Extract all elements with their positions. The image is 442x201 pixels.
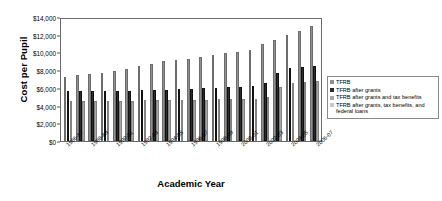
y-axis-tick-label: $12,000: [33, 32, 56, 39]
legend-swatch-icon: [330, 96, 334, 100]
y-axis-tick-label: $10,000: [33, 50, 56, 57]
legend-label: TFRB after grants: [336, 87, 380, 93]
bar-group: [161, 19, 173, 141]
bar-group: [185, 19, 197, 141]
bar-group: [210, 19, 222, 141]
bar: [218, 99, 221, 141]
bar-group: [235, 19, 247, 141]
legend-label: TFRB after grants and tax benefits: [336, 94, 422, 100]
chart-container: Cost per Pupil $14,000$12,000$10,000$8,0…: [0, 0, 442, 201]
bar-group: [222, 19, 234, 141]
bar: [168, 100, 171, 141]
bar-group: [272, 19, 284, 141]
bar-group: [284, 19, 296, 141]
y-axis-tick-label: $6,000: [36, 85, 56, 92]
y-axis-tick-label: $14,000: [33, 15, 56, 22]
bar-group: [111, 19, 123, 141]
bar-group: [99, 19, 111, 141]
legend-item[interactable]: TFRB after grants and tax benefits: [330, 94, 436, 100]
bar-group: [259, 19, 271, 141]
x-axis-title: Academic Year: [60, 178, 322, 189]
bar-group: [124, 19, 136, 141]
bar: [144, 100, 147, 141]
y-axis-tick-label: $8,000: [36, 68, 56, 75]
bar-groups: [61, 19, 322, 141]
y-axis-tick-label: $2,000: [36, 121, 56, 128]
bar: [242, 99, 245, 141]
bar-group: [62, 19, 74, 141]
bar-group: [148, 19, 160, 141]
legend-item[interactable]: TFRB: [330, 79, 436, 85]
bar-group: [136, 19, 148, 141]
legend-item[interactable]: TFRB after grants, tax benefits, and fed…: [330, 102, 436, 114]
bar-group: [198, 19, 210, 141]
bar: [292, 83, 295, 141]
bar: [94, 101, 97, 141]
bar-group: [296, 19, 308, 141]
bar-group: [173, 19, 185, 141]
y-axis-tick-label: $0: [49, 139, 56, 146]
legend-swatch-icon: [330, 80, 334, 84]
legend-label: TFRB after grants, tax benefits, and fed…: [336, 102, 436, 114]
bar: [193, 100, 196, 141]
legend-swatch-icon: [330, 88, 334, 92]
bar: [267, 97, 270, 141]
y-axis-tick-label: $4,000: [36, 103, 56, 110]
bar-group: [87, 19, 99, 141]
bar-group: [247, 19, 259, 141]
bar: [119, 101, 122, 141]
x-axis-tick-labels: 1986-871988-891990-911992-931994-951996-…: [60, 143, 322, 173]
legend-swatch-icon: [330, 103, 334, 107]
bar: [316, 81, 319, 141]
bar-group: [74, 19, 86, 141]
legend-item[interactable]: TFRB after grants: [330, 87, 436, 93]
legend-label: TFRB: [336, 79, 351, 85]
y-axis-tick-labels: $14,000$12,000$10,000$8,000$6,000$4,000$…: [22, 18, 60, 142]
bar-group: [309, 19, 321, 141]
plot-area: [60, 18, 322, 142]
chart-legend: TFRBTFRB after grantsTFRB after grants a…: [327, 76, 439, 119]
